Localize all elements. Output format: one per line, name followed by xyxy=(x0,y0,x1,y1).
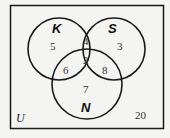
venn-diagram: K S N 5 3 7 4 6 8 2 20 U xyxy=(0,0,170,138)
region-k-only: 5 xyxy=(50,40,56,52)
set-k-label: K xyxy=(52,21,63,36)
region-n-only: 7 xyxy=(83,83,89,95)
region-k-n: 6 xyxy=(63,64,69,76)
universe-label: U xyxy=(16,111,26,125)
region-k-s: 4 xyxy=(83,35,89,47)
region-s-only: 3 xyxy=(117,40,123,52)
region-s-n: 8 xyxy=(102,64,108,76)
set-n-label: N xyxy=(81,100,91,115)
region-outside: 20 xyxy=(135,109,147,121)
region-k-s-n: 2 xyxy=(83,54,89,66)
set-s-label: S xyxy=(108,21,117,36)
